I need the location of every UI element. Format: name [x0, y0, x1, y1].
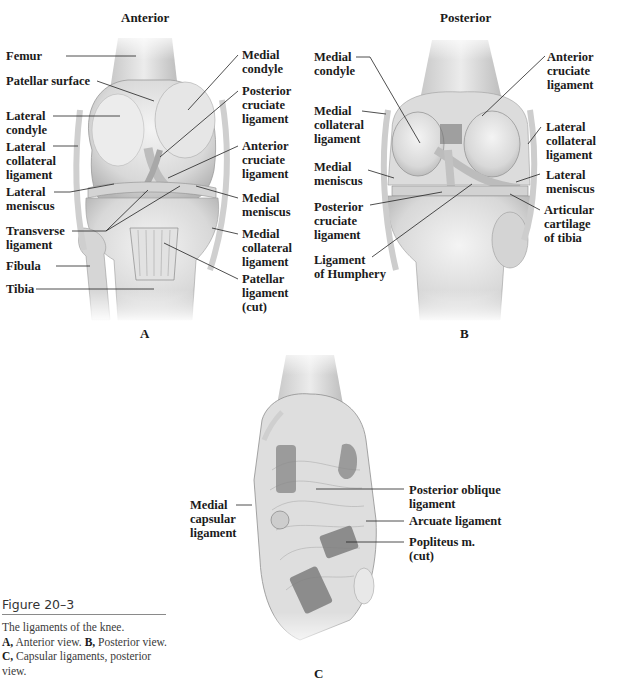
label-medial-meniscus-b: Medial meniscus	[314, 160, 363, 188]
panel-b-letter: B	[460, 326, 469, 342]
panel-a-letter: A	[140, 326, 149, 342]
caption-text-a: Anterior view.	[13, 636, 84, 648]
label-lateral-collateral-ligament-b: Lateral collateral ligament	[546, 120, 596, 162]
label-arcuate-ligament: Arcuate ligament	[409, 514, 501, 528]
label-articular-cartilage-of-tibia: Articular cartilage of tibia	[544, 203, 594, 245]
label-lateral-meniscus-b: Lateral meniscus	[546, 168, 595, 196]
panel-b-title: Posterior	[440, 10, 491, 26]
label-medial-capsular-ligament: Medial capsular ligament	[190, 498, 237, 540]
label-medial-collateral-ligament-b: Medial collateral ligament	[314, 104, 364, 146]
caption-text-c: Capsular ligaments, posterior view.	[2, 650, 151, 677]
label-posterior-cruciate-ligament-a: Posterior cruciate ligament	[242, 84, 291, 126]
label-medial-collateral-ligament-a: Medial collateral ligament	[242, 227, 292, 269]
panel-a-title: Anterior	[121, 10, 169, 26]
label-lateral-meniscus-a: Lateral meniscus	[6, 185, 55, 213]
caption-divider	[2, 614, 166, 615]
caption-text-b: Posterior view.	[95, 636, 167, 648]
label-posterior-oblique-ligament: Posterior oblique ligament	[409, 483, 501, 511]
caption-key-c: C,	[2, 650, 13, 662]
caption-line-1: The ligaments of the knee.	[2, 621, 124, 633]
label-posterior-cruciate-ligament-b: Posterior cruciate ligament	[314, 200, 363, 242]
knee-illustrations	[0, 0, 621, 696]
caption-key-b: B,	[85, 636, 96, 648]
label-ligament-of-humphery: Ligament of Humphery	[314, 253, 386, 281]
panel-c-letter: C	[314, 666, 323, 682]
figure-caption: The ligaments of the knee. A, Anterior v…	[2, 620, 172, 678]
label-medial-condyle-b: Medial condyle	[314, 50, 355, 78]
label-fibula: Fibula	[6, 259, 41, 273]
label-anterior-cruciate-ligament-b: Anterior cruciate ligament	[547, 50, 594, 92]
label-popliteus-cut: Popliteus m. (cut)	[409, 535, 475, 563]
label-femur: Femur	[6, 49, 42, 63]
label-lateral-condyle-a: Lateral condyle	[6, 109, 47, 137]
label-patellar-surface: Patellar surface	[6, 74, 90, 88]
caption-key-a: A,	[2, 636, 13, 648]
figure-number: Figure 20–3	[2, 597, 74, 612]
label-medial-meniscus-a: Medial meniscus	[242, 191, 291, 219]
label-lateral-collateral-ligament-a: Lateral collateral ligament	[6, 140, 56, 182]
capsular-knee-drawing	[236, 345, 404, 652]
label-patellar-ligament-cut: Patellar ligament (cut)	[242, 272, 289, 314]
label-medial-condyle-a: Medial condyle	[242, 48, 283, 76]
label-tibia: Tibia	[6, 282, 34, 296]
label-transverse-ligament: Transverse ligament	[6, 224, 65, 252]
label-anterior-cruciate-ligament-a: Anterior cruciate ligament	[242, 139, 289, 181]
